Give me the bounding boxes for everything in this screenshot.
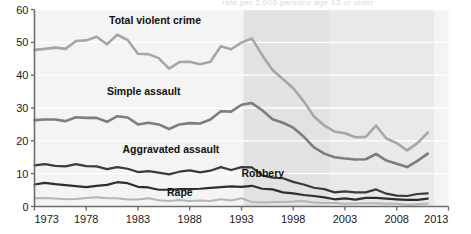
series-label-total-violent-crime: Total violent crime [109,14,201,26]
x-tick-label-1983: 1983 [126,213,150,225]
x-tick-label-1988: 1988 [178,213,202,225]
y-tick-label-50: 50 [16,36,28,48]
violent-crime-line-chart: 0102030405060197319781983198819931998200… [0,0,471,234]
x-tick-label-1993: 1993 [229,213,253,225]
y-tick-label-20: 20 [16,135,28,147]
x-tick-label-2013: 2013 [424,213,448,225]
y-tick-label-0: 0 [22,201,28,213]
y-tick-label-60: 60 [16,4,28,16]
series-label-rape: Rape [167,186,193,198]
chart-container: rate per 1,000 persons age 12 or older 0… [0,0,471,234]
y-tick-label-40: 40 [16,69,28,81]
y-tick-label-30: 30 [16,102,28,114]
series-label-simple-assault: Simple assault [107,85,181,97]
series-label-robbery: Robbery [242,167,285,179]
y-tick-label-10: 10 [16,168,28,180]
x-tick-label-1978: 1978 [74,213,98,225]
x-tick-label-2003: 2003 [333,213,357,225]
x-tick-label-1973: 1973 [35,213,59,225]
clipped-header-text: rate per 1,000 persons age 12 or older [222,0,374,7]
x-tick-label-1998: 1998 [281,213,305,225]
x-tick-label-2008: 2008 [385,213,409,225]
series-label-aggravated-assault: Aggravated assault [122,143,219,155]
